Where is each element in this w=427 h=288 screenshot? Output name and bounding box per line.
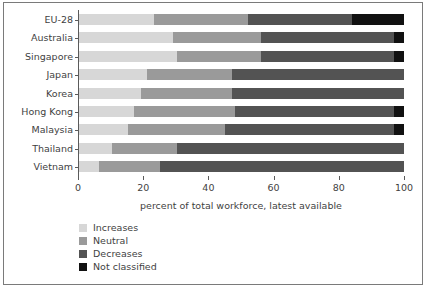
bar-row [79,88,404,99]
bar-segment [248,14,352,25]
bar-segment [79,124,128,135]
plot-area: EU-28AustraliaSingaporeJapanKoreaHong Ko… [78,10,404,176]
y-axis-label: Australia [0,32,73,43]
bar-segment [154,14,248,25]
bar-segment [261,32,394,43]
y-axis-label: Vietnam [0,161,73,172]
legend-label: Neutral [93,235,128,246]
y-axis-label: Singapore [0,51,73,62]
bar-segment [79,32,173,43]
x-axis-tick [339,176,340,180]
y-axis-label: Malaysia [0,124,73,135]
bar-segment [79,143,112,154]
legend-item: Neutral [79,234,157,247]
bar-segment [177,51,262,62]
bar-segment [79,69,147,80]
legend-swatch-icon [79,263,87,271]
bar-segment [261,51,394,62]
bar-segment [352,14,404,25]
bar-segment [232,69,404,80]
bar-segment [225,124,394,135]
legend-item: Not classified [79,260,157,273]
x-axis-title: percent of total workforce, latest avail… [78,200,404,211]
x-axis-tick-label: 60 [268,182,280,193]
legend-label: Decreases [93,248,143,259]
y-axis-label: Japan [0,69,73,80]
x-axis-tick-label: 0 [75,182,81,193]
bar-row [79,143,404,154]
bar-segment [394,106,404,117]
bar-row [79,14,404,25]
bar-row [79,124,404,135]
bar-segment [134,106,235,117]
bar-segment [99,161,161,172]
x-axis-tick [274,176,275,180]
bar-segment [177,143,405,154]
bar-segment [173,32,261,43]
x-axis-tick [208,176,209,180]
bar-segment [232,88,404,99]
bar-segment [128,124,226,135]
bar-row [79,161,404,172]
legend-item: Increases [79,221,157,234]
legend-swatch-icon [79,250,87,258]
legend-swatch-icon [79,224,87,232]
bar-segment [79,161,99,172]
x-axis-tick [143,176,144,180]
bar-row [79,32,404,43]
bar-segment [160,161,404,172]
bar-segment [79,88,141,99]
bar-segment [79,14,154,25]
y-axis-label: EU-28 [0,14,73,25]
y-axis-label: Korea [0,88,73,99]
x-axis-tick [404,176,405,180]
legend-item: Decreases [79,247,157,260]
bar-row [79,69,404,80]
bar-segment [147,69,232,80]
chart-legend: IncreasesNeutralDecreasesNot classified [79,221,157,273]
y-axis-label: Thailand [0,143,73,154]
bar-segment [394,32,404,43]
bar-segment [235,106,394,117]
x-axis-tick-label: 80 [333,182,345,193]
bar-segment [112,143,177,154]
bar-segment [394,124,404,135]
y-axis-label: Hong Kong [0,106,73,117]
bar-row [79,51,404,62]
legend-label: Not classified [93,261,157,272]
bar-segment [79,51,177,62]
legend-swatch-icon [79,237,87,245]
x-axis-tick [78,176,79,180]
bar-row [79,106,404,117]
legend-label: Increases [93,222,138,233]
bar-segment [141,88,232,99]
chart-figure: EU-28AustraliaSingaporeJapanKoreaHong Ko… [0,0,427,288]
bar-segment [79,106,134,117]
bar-segment [394,51,404,62]
x-axis-tick-label: 100 [395,182,413,193]
x-axis-tick-label: 40 [202,182,214,193]
x-axis-tick-label: 20 [137,182,149,193]
